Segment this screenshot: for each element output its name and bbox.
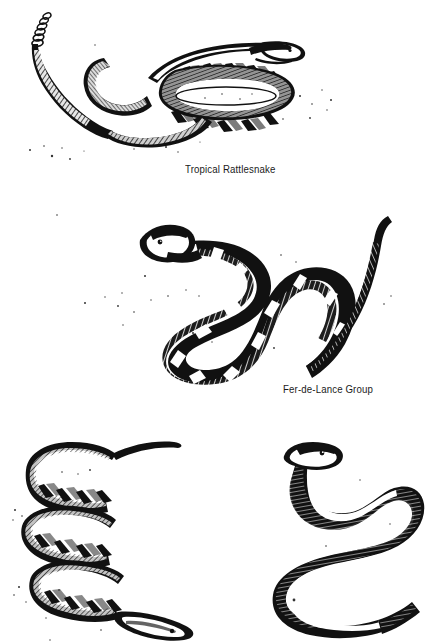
fer-de-lance-eye (158, 240, 163, 245)
rattlesnake-tail (32, 44, 113, 139)
lower-right-snake-head (284, 442, 343, 470)
fer-de-lance-drawing (0, 200, 434, 400)
fer-de-lance-head (140, 225, 202, 263)
rattlesnake-eye (288, 49, 291, 52)
tropical-rattlesnake-drawing (0, 0, 434, 185)
lower-right-snake-eye (320, 451, 325, 456)
figure-tropical-rattlesnake (0, 0, 434, 185)
lower-left-snake-tail (112, 442, 181, 461)
lower-left-snake-drawing (0, 430, 230, 643)
illustration-plate: Tropical Rattlesnake (0, 0, 434, 643)
lower-right-snake-drawing (240, 440, 434, 643)
caption-fer-de-lance: Fer-de-Lance Group (283, 383, 373, 395)
belly-stripe (307, 470, 397, 521)
lower-left-snake-head (114, 612, 194, 641)
figure-fer-de-lance (0, 200, 434, 400)
rattle (31, 12, 52, 47)
figure-lower-left-snake (0, 430, 230, 643)
caption-tropical-rattlesnake: Tropical Rattlesnake (185, 163, 275, 175)
coil-stack (21, 442, 124, 622)
figure-lower-right-snake (240, 440, 434, 643)
